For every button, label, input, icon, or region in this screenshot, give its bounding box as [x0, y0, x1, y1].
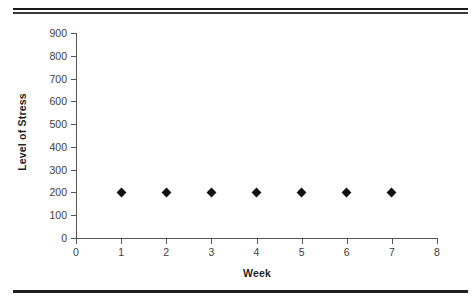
scatter-chart: 0100200300400500600700800900 012345678 L…: [0, 0, 475, 302]
y-tick-mark: [71, 124, 76, 125]
y-tick-label-text: 900: [33, 28, 67, 38]
data-point-marker: [342, 187, 352, 197]
y-axis-title: Level of Stress: [16, 72, 28, 192]
y-tick-label-text: 500: [33, 119, 67, 129]
y-tick-label-text: 400: [33, 142, 67, 152]
x-tick-mark: [166, 239, 167, 244]
y-tick-label-text: 800: [33, 51, 67, 61]
x-tick-label: 7: [377, 247, 407, 258]
y-tick-mark: [71, 147, 76, 148]
y-tick-label: 600: [31, 96, 67, 106]
y-tick-label: 700: [31, 74, 67, 84]
x-tick-mark: [437, 239, 438, 244]
y-tick-label-text: 300: [33, 165, 67, 175]
x-tick-mark: [121, 239, 122, 244]
y-tick-label-text: 700: [33, 74, 67, 84]
y-tick-label: 900: [31, 28, 67, 38]
y-tick-label: 0: [31, 233, 67, 243]
x-tick-label: 2: [151, 247, 181, 258]
data-point-marker: [206, 187, 216, 197]
y-tick-label-text: 100: [33, 210, 67, 220]
y-tick-label: 400: [31, 142, 67, 152]
x-tick-mark: [302, 239, 303, 244]
y-tick-mark: [71, 192, 76, 193]
data-point-marker: [252, 187, 262, 197]
data-point-marker: [297, 187, 307, 197]
y-tick-mark: [71, 56, 76, 57]
x-tick-label: 8: [422, 247, 452, 258]
y-tick-mark: [71, 101, 76, 102]
x-tick-mark: [392, 239, 393, 244]
x-tick-label: 4: [242, 247, 272, 258]
data-point-marker: [161, 187, 171, 197]
y-tick-mark: [71, 79, 76, 80]
x-tick-mark: [347, 239, 348, 244]
y-tick-label: 800: [31, 51, 67, 61]
y-tick-mark: [71, 170, 76, 171]
y-tick-label: 500: [31, 119, 67, 129]
bottom-horizontal-rule: [13, 290, 468, 293]
x-axis-title: Week: [76, 267, 438, 279]
x-tick-label: 5: [287, 247, 317, 258]
x-tick-mark: [76, 239, 77, 244]
y-tick-mark: [71, 33, 76, 34]
y-tick-mark: [71, 215, 76, 216]
y-tick-label: 100: [31, 210, 67, 220]
x-tick-label: 1: [106, 247, 136, 258]
x-tick-mark: [211, 239, 212, 244]
x-tick-label: 0: [61, 247, 91, 258]
y-tick-label: 300: [31, 165, 67, 175]
x-tick-label: 6: [332, 247, 362, 258]
y-tick-label-text: 0: [33, 233, 67, 243]
x-tick-mark: [257, 239, 258, 244]
y-axis-line: [76, 33, 77, 239]
y-tick-label: 200: [31, 187, 67, 197]
x-tick-label: 3: [196, 247, 226, 258]
data-point-marker: [116, 187, 126, 197]
data-point-marker: [387, 187, 397, 197]
y-tick-label-text: 200: [33, 187, 67, 197]
y-tick-label-text: 600: [33, 96, 67, 106]
